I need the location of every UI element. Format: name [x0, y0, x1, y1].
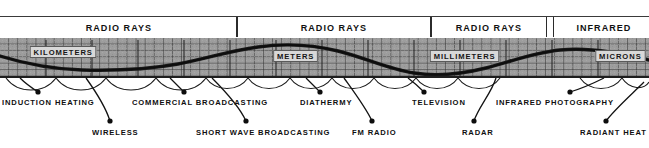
callout-dot — [421, 89, 426, 94]
callout-dot — [181, 89, 186, 94]
callout-label: RADIANT HEAT — [580, 128, 647, 137]
callout-dot — [471, 118, 476, 123]
callout-dot — [35, 89, 40, 94]
callout-label: DIATHERMY — [300, 98, 352, 107]
callout-dot — [369, 118, 374, 123]
callout-layer — [0, 0, 649, 148]
callout-dot — [317, 89, 322, 94]
spectrum-figure: RADIO RAYSRADIO RAYSRADIO RAYSINFRARED — [0, 0, 649, 148]
callout-label: INDUCTION HEATING — [2, 98, 95, 107]
callout-dot — [107, 118, 112, 123]
callout-dot — [567, 89, 572, 94]
callout-label: WIRELESS — [92, 128, 139, 137]
callout-label: TELEVISION — [412, 98, 466, 107]
callout-dot — [603, 118, 608, 123]
scallop-arcs — [6, 78, 649, 90]
callout-label: COMMERCIAL BROADCASTING — [132, 98, 268, 107]
callout-label: INFRARED PHOTOGRAPHY — [496, 98, 614, 107]
callout-label: RADAR — [462, 128, 494, 137]
callout-label: SHORT WAVE BROADCASTING — [196, 128, 330, 137]
callout-label: FM RADIO — [352, 128, 396, 137]
callout-dot — [243, 118, 248, 123]
